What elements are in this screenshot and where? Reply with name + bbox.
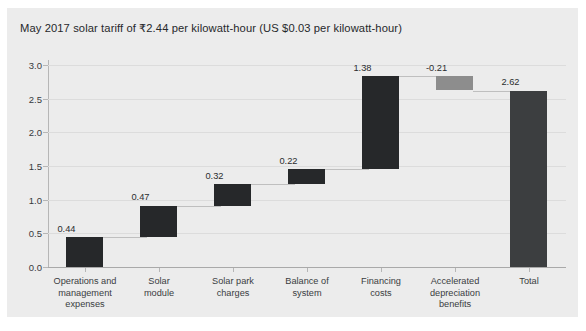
gridline bbox=[48, 233, 566, 234]
x-tick-mark bbox=[85, 268, 86, 272]
x-tick-mark bbox=[381, 268, 382, 272]
category-label-line: system bbox=[270, 288, 344, 300]
category-label-line: depreciation bbox=[418, 288, 492, 300]
category-label-line: Solar park bbox=[196, 276, 270, 288]
bar-accelerated-depreciation-benefits[interactable] bbox=[436, 76, 473, 90]
bar-total[interactable] bbox=[510, 91, 547, 268]
chart-title: May 2017 solar tariff of ₹2.44 per kilow… bbox=[20, 22, 402, 35]
connector-line bbox=[177, 206, 221, 207]
bar-solar-module[interactable] bbox=[140, 206, 177, 238]
category-label-line: Total bbox=[492, 276, 566, 288]
gridline bbox=[48, 65, 566, 66]
y-tick-label: 0.0 bbox=[12, 262, 42, 273]
category-label-financing-costs: Financing costs bbox=[344, 276, 418, 299]
bar-operations-and-management-expenses[interactable] bbox=[66, 237, 103, 267]
category-label-line: Solar bbox=[122, 276, 196, 288]
value-label-solar-park-charges: 0.32 bbox=[195, 171, 235, 181]
category-label-line: expenses bbox=[48, 299, 122, 311]
category-label-line: Balance of bbox=[270, 276, 344, 288]
connector-line bbox=[325, 169, 369, 170]
x-tick-mark bbox=[159, 268, 160, 272]
category-label-line: management bbox=[48, 288, 122, 300]
x-tick-mark bbox=[529, 268, 530, 272]
value-label-operations: 0.44 bbox=[47, 224, 87, 234]
value-label-financing-costs: 1.38 bbox=[343, 63, 383, 73]
y-tick-label: 2.5 bbox=[12, 94, 42, 105]
category-label-line: Operations and bbox=[48, 276, 122, 288]
category-label-solar-module: Solar module bbox=[122, 276, 196, 299]
y-tick-label: 3.0 bbox=[12, 60, 42, 71]
x-tick-mark bbox=[455, 268, 456, 272]
value-label-solar-module: 0.47 bbox=[121, 192, 161, 202]
y-tick-label: 2.0 bbox=[12, 127, 42, 138]
category-label-line: charges bbox=[196, 288, 270, 300]
category-label-balance-of-system: Balance of system bbox=[270, 276, 344, 299]
y-tick-label: 1.0 bbox=[12, 195, 42, 206]
y-tick-label: 1.5 bbox=[12, 161, 42, 172]
category-label-total: Total bbox=[492, 276, 566, 288]
category-label-operations-and-management-expenses: Operations and management expenses bbox=[48, 276, 122, 311]
category-label-accelerated-depreciation-benefits: Accelerated depreciation benefits bbox=[418, 276, 492, 311]
y-tick-label: 0.5 bbox=[12, 228, 42, 239]
figure: May 2017 solar tariff of ₹2.44 per kilow… bbox=[0, 0, 586, 331]
category-label-solar-park-charges: Solar park charges bbox=[196, 276, 270, 299]
connector-line bbox=[103, 237, 147, 238]
bar-balance-of-system[interactable] bbox=[288, 169, 325, 184]
value-label-balance-of-system: 0.22 bbox=[269, 156, 309, 166]
gridline bbox=[48, 99, 566, 100]
gridline bbox=[48, 132, 566, 133]
category-label-line: module bbox=[122, 288, 196, 300]
bar-solar-park-charges[interactable] bbox=[214, 184, 251, 206]
value-label-total: 2.62 bbox=[491, 77, 531, 87]
x-tick-mark bbox=[307, 268, 308, 272]
connector-line bbox=[251, 184, 295, 185]
category-label-line: benefits bbox=[418, 299, 492, 311]
gridline bbox=[48, 166, 566, 167]
x-tick-mark bbox=[233, 268, 234, 272]
bar-financing-costs[interactable] bbox=[362, 76, 399, 169]
value-label-accelerated-depreciation: -0.21 bbox=[417, 63, 457, 73]
category-label-line: costs bbox=[344, 288, 418, 300]
category-label-line: Accelerated bbox=[418, 276, 492, 288]
category-label-line: Financing bbox=[344, 276, 418, 288]
